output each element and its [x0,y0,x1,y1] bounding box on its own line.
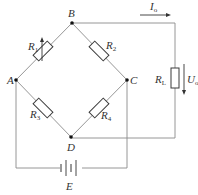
node-a [14,78,18,82]
battery-icon [60,159,82,177]
resistor-rl [171,68,179,88]
label-r4: R4 [100,109,112,123]
current-arrow-icon [166,13,171,17]
node-c [125,78,129,82]
label-current: Io [149,0,158,14]
label-rl: RL [154,73,166,87]
node-d [69,135,73,139]
circuit-diagram: B A C D E R1 R2 R3 R4 RL Io Uo [0,0,198,195]
label-r2: R2 [105,39,117,53]
label-source-e: E [65,180,73,192]
arrowhead-icon [40,37,44,42]
label-node-d: D [66,141,75,153]
label-voltage: Uo [187,73,198,87]
wire-a-battery [16,80,61,168]
label-node-b: B [68,7,75,19]
label-node-a: A [6,74,14,86]
label-r1: R1 [27,40,39,54]
label-node-c: C [130,74,138,86]
node-b [70,21,74,25]
voltage-arrow-icon [182,90,186,95]
